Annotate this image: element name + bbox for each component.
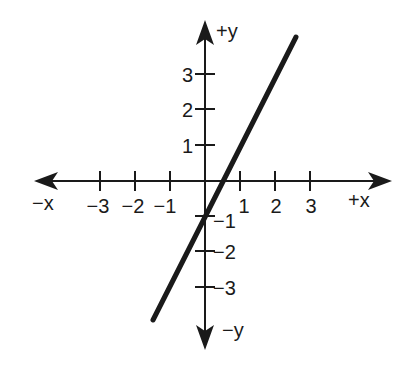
y-axis-negative-label: −y — [222, 319, 244, 341]
x-tick-label: 3 — [305, 195, 316, 217]
y-axis-positive-label: +y — [216, 20, 238, 42]
x-tick-label: 1 — [238, 195, 249, 217]
y-tick-label: −3 — [213, 277, 236, 299]
x-axis-positive-label: +x — [348, 189, 370, 211]
y-tick-label: 3 — [182, 64, 193, 86]
y-tick-label: −2 — [213, 241, 236, 263]
y-tick-label: −1 — [213, 210, 236, 232]
y-tick-label: 1 — [182, 135, 193, 157]
y-tick-label: 2 — [182, 99, 193, 121]
coordinate-plane: −3 −2 −1 1 2 3 3 2 1 −1 −2 −3 −x +x +y −… — [0, 0, 413, 367]
x-tick-label: −1 — [154, 195, 177, 217]
x-tick-label: −2 — [122, 195, 145, 217]
x-tick-label: 2 — [270, 195, 281, 217]
x-axis-negative-label: −x — [32, 192, 54, 214]
x-tick-label: −3 — [87, 195, 110, 217]
